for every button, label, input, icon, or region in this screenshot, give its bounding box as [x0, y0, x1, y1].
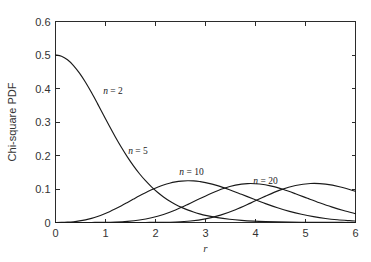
y-tick-label: 0.2 [35, 150, 50, 162]
y-tick-label: 0.3 [35, 116, 50, 128]
y-tick-label: 0.1 [35, 183, 50, 195]
annotation-text: n = 20 [253, 176, 278, 186]
chi-square-pdf-plot: 0123456 00.10.20.30.40.50.6 n = 2n = 5n … [0, 0, 371, 262]
x-tick-label: 0 [52, 227, 58, 239]
annotation-text: n = 2 [103, 86, 123, 96]
x-tick-label: 4 [252, 227, 258, 239]
annotation-n-10: n = 10 [179, 167, 204, 177]
annotation-text: n = 10 [179, 167, 204, 177]
annotation-text: n = 5 [128, 146, 148, 156]
x-tick-label: 2 [152, 227, 158, 239]
y-tick-label: 0 [44, 217, 50, 229]
annotation-n-2: n = 2 [103, 86, 123, 96]
y-tick-label: 0.5 [35, 49, 50, 61]
x-tick-label: 6 [352, 227, 358, 239]
x-axis-label: r [203, 242, 208, 254]
y-tick-label: 0.4 [35, 83, 50, 95]
x-tick-label: 1 [102, 227, 108, 239]
chart-figure: 0123456 00.10.20.30.40.50.6 n = 2n = 5n … [0, 0, 371, 262]
y-axis-label: Chi-square PDF [6, 82, 18, 161]
annotation-n-5: n = 5 [128, 146, 148, 156]
y-tick-label: 0.6 [35, 16, 50, 28]
x-tick-label: 5 [302, 227, 308, 239]
annotation-n-20: n = 20 [253, 176, 278, 186]
x-tick-label: 3 [202, 227, 208, 239]
